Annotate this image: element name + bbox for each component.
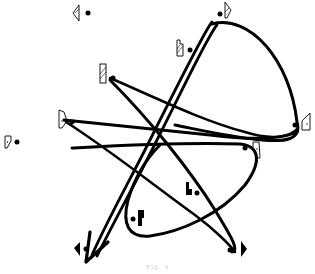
trajectory-diagram xyxy=(0,0,315,274)
loop-upper-right xyxy=(175,23,298,141)
marker-m6 xyxy=(5,136,20,148)
figure-caption: Fig. 3 xyxy=(0,263,315,271)
marker-m1 xyxy=(73,5,91,21)
marker-m3 xyxy=(177,40,193,56)
marker-m4 xyxy=(100,64,116,83)
marker-m2 xyxy=(218,2,232,18)
marker-m10 xyxy=(131,210,145,226)
marker-m12 xyxy=(228,241,248,257)
double-arrow-stroke-a xyxy=(92,22,212,255)
loop-lower-center xyxy=(72,143,256,236)
